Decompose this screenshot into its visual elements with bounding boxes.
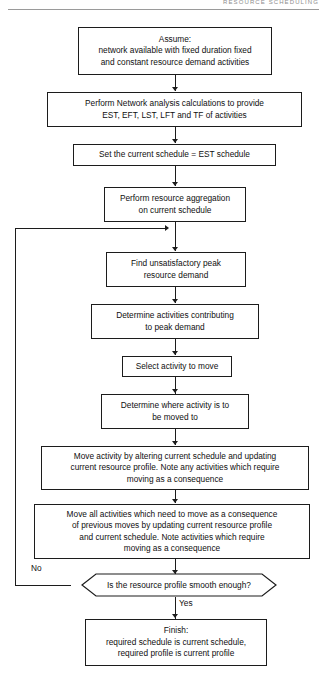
node-set-current-schedule: Set the current schedule = EST schedule xyxy=(73,144,276,166)
arrowhead-aggregation xyxy=(172,182,178,186)
arrowhead-select-activity xyxy=(172,351,178,355)
node-determine-where: Determine where activity is to be moved … xyxy=(101,394,249,429)
arrowhead-determine-where xyxy=(172,389,178,393)
node-determine-activities: Determine activities contributing to pea… xyxy=(91,304,259,339)
arrowhead-feedback-loop xyxy=(165,225,169,231)
node-decision-smooth: Is the resource profile smooth enough? xyxy=(70,573,288,597)
node-decision-smooth-label: Is the resource profile smooth enough? xyxy=(70,573,288,597)
node-finish-label: Finish: required schedule is current sch… xyxy=(106,625,246,659)
node-move-all-activities-label: Move all activities which need to move a… xyxy=(67,509,278,555)
flowchart-page: RESOURCE SCHEDULING Assume: network avai… xyxy=(0,0,327,688)
node-set-current-schedule-label: Set the current schedule = EST schedule xyxy=(99,149,250,160)
node-move-activity: Move activity by altering current schedu… xyxy=(41,446,309,490)
node-resource-aggregation: Perform resource aggregation on current … xyxy=(104,187,246,222)
arrowhead-find-peak xyxy=(172,247,178,251)
arrowhead-finish xyxy=(172,614,178,618)
node-move-activity-label: Move activity by altering current schedu… xyxy=(71,451,280,485)
node-resource-aggregation-label: Perform resource aggregation on current … xyxy=(120,193,230,216)
running-header-text: RESOURCE SCHEDULING xyxy=(223,0,319,6)
node-determine-where-label: Determine where activity is to be moved … xyxy=(121,400,229,423)
feedback-loop-left-segment xyxy=(15,228,16,585)
node-network-analysis-label: Perform Network analysis calculations to… xyxy=(85,98,264,121)
edge-label-no: No xyxy=(31,563,42,573)
arrowhead-set-schedule xyxy=(172,139,178,143)
node-find-peak: Find unsatisfactory peak resource demand xyxy=(106,252,246,287)
edge-label-yes: Yes xyxy=(179,598,193,608)
node-assume-label: Assume: network available with fixed dur… xyxy=(98,34,251,68)
feedback-loop-bottom-segment xyxy=(15,585,71,586)
node-network-analysis: Perform Network analysis calculations to… xyxy=(47,92,302,127)
node-find-peak-label: Find unsatisfactory peak resource demand xyxy=(131,258,221,281)
node-determine-activities-label: Determine activities contributing to pea… xyxy=(116,310,234,333)
arrowhead-network-analysis xyxy=(172,87,178,91)
header-rule xyxy=(8,9,319,10)
arrowhead-determine-activities xyxy=(172,299,178,303)
arrowhead-move-activity xyxy=(172,441,178,445)
feedback-loop-top-segment xyxy=(15,228,167,229)
node-select-activity: Select activity to move xyxy=(122,356,232,377)
arrowhead-move-all-activities xyxy=(172,499,178,503)
node-assume: Assume: network available with fixed dur… xyxy=(78,27,272,75)
node-finish: Finish: required schedule is current sch… xyxy=(85,619,267,666)
node-select-activity-label: Select activity to move xyxy=(136,361,219,372)
node-move-all-activities: Move all activities which need to move a… xyxy=(34,504,310,559)
